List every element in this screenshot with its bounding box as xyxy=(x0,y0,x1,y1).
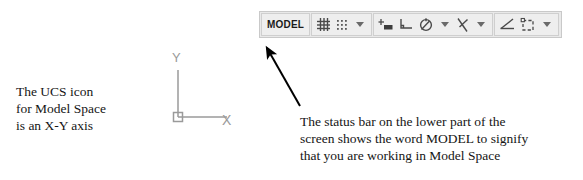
polar-tracking-button[interactable] xyxy=(416,14,436,35)
snap-dots-icon xyxy=(335,18,349,32)
snap-mode-dropdown[interactable] xyxy=(351,14,369,35)
grid-icon xyxy=(316,17,331,32)
caption-status-line-2: screen shows the word MODEL to signify xyxy=(300,130,528,147)
model-button-label: MODEL xyxy=(267,19,304,30)
object-snap-icon xyxy=(456,17,470,33)
caption-ucs: The UCS icon for Model Space is an X-Y a… xyxy=(16,83,106,134)
polar-tracking-dropdown[interactable] xyxy=(436,14,454,35)
chevron-down-icon xyxy=(477,22,485,27)
caption-ucs-line-2: for Model Space xyxy=(16,100,106,117)
status-bar: MODEL xyxy=(259,11,562,38)
annotation-group xyxy=(494,13,559,36)
ucs-icon xyxy=(155,52,245,127)
caption-status-bar: The status bar on the lower part of the … xyxy=(300,113,528,164)
grid-snap-group xyxy=(311,13,372,36)
model-space-button[interactable]: MODEL xyxy=(261,13,310,36)
dynamic-input-icon xyxy=(378,17,394,32)
callout-arrow xyxy=(258,40,318,112)
caption-status-line-1: The status bar on the lower part of the xyxy=(300,113,528,130)
annotation-scale-dropdown[interactable] xyxy=(538,14,556,35)
caption-ucs-line-1: The UCS icon xyxy=(16,83,106,100)
ortho-l-icon xyxy=(398,17,414,32)
dashed-square-icon xyxy=(520,17,536,32)
angle-constraint-button[interactable] xyxy=(497,14,518,35)
annotation-scale-button[interactable] xyxy=(518,14,538,35)
chevron-down-icon xyxy=(543,22,551,27)
object-snap-button[interactable] xyxy=(454,14,472,35)
chevron-down-icon xyxy=(441,22,449,27)
angle-icon xyxy=(499,17,516,32)
grid-display-button[interactable] xyxy=(314,14,333,35)
polar-tracking-icon xyxy=(418,17,434,33)
caption-ucs-line-3: is an X-Y axis xyxy=(16,117,106,134)
snap-mode-button[interactable] xyxy=(333,14,351,35)
ucs-y-axis-label: Y xyxy=(172,50,181,65)
ucs-x-axis-label: X xyxy=(222,112,231,128)
ortho-mode-button[interactable] xyxy=(396,14,416,35)
dynamic-input-button[interactable] xyxy=(376,14,396,35)
object-snap-dropdown[interactable] xyxy=(472,14,490,35)
caption-status-line-3: that you are working in Model Space xyxy=(300,147,528,164)
chevron-down-icon xyxy=(356,22,364,27)
drafting-aids-group xyxy=(373,13,493,36)
